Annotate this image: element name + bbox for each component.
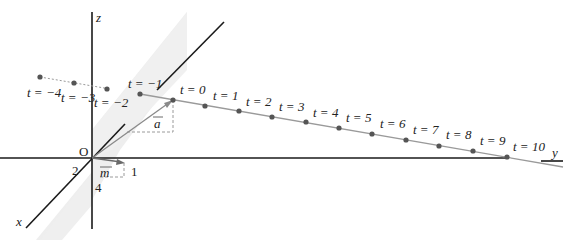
label-t-1: t = 1	[213, 88, 238, 103]
point-t-6	[369, 131, 374, 136]
label-t-4: t = 4	[313, 105, 339, 120]
point-t-8	[436, 143, 441, 148]
point-t-7	[403, 137, 408, 142]
point-t-5	[336, 125, 341, 130]
point-t-2	[236, 108, 241, 113]
point-t-0	[170, 97, 175, 102]
label-t-neg1: t = −1	[128, 76, 162, 91]
label-t-neg3: t = −3	[61, 90, 96, 105]
y-axis-label: y	[550, 145, 558, 160]
point-t-neg1	[137, 91, 142, 96]
label-t-0: t = 0	[180, 82, 206, 97]
origin-label: O	[79, 144, 88, 159]
label-t-neg4: t = −4	[27, 85, 62, 100]
line-diagram: z x y O a m 2 1 4 t = −4 t = −3 t = −2 t…	[0, 0, 574, 242]
label-t-10: t = 10	[513, 139, 545, 154]
m-component-y: 1	[131, 164, 138, 179]
label-t-8: t = 8	[446, 127, 472, 142]
z-axis-label: z	[95, 10, 101, 25]
label-t-5: t = 5	[346, 110, 372, 125]
point-t-4	[303, 119, 308, 124]
label-t-neg2: t = −2	[94, 95, 129, 110]
point-t-neg3	[71, 80, 76, 85]
m-component-z: 4	[95, 180, 102, 195]
label-t-6: t = 6	[380, 116, 406, 131]
label-t-2: t = 2	[246, 94, 272, 109]
vector-a-label: a	[154, 116, 161, 131]
label-t-9: t = 9	[480, 133, 506, 148]
point-t-neg4	[37, 74, 42, 79]
point-t-3	[269, 114, 274, 119]
m-component-x: 2	[72, 163, 79, 178]
x-axis-label: x	[15, 214, 22, 229]
point-t-9	[470, 148, 475, 153]
point-t-neg2	[104, 86, 109, 91]
label-t-7: t = 7	[413, 122, 439, 137]
point-t-1	[202, 103, 207, 108]
point-t-10	[504, 154, 509, 159]
label-t-3: t = 3	[279, 99, 305, 114]
